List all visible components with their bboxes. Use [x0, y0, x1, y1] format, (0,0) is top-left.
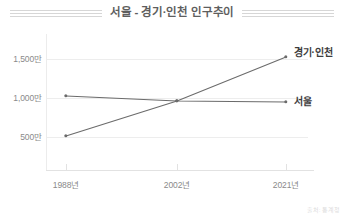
chart-root: 서울 - 경기·인천 인구추이 1,500만 1,000만 500만 경기·인천… [0, 0, 344, 215]
x-tick-label-2021: 2021년 [273, 181, 299, 190]
x-tick-label-2002: 2002년 [164, 181, 190, 190]
series-label-gyeonggi-incheon: 경기·인천 [294, 48, 332, 58]
series-label-seoul: 서울 [294, 97, 312, 107]
series-line-gyeonggi-incheon [66, 57, 286, 136]
x-tick-label-1988: 1988년 [53, 181, 79, 190]
source-note: 출처: 통계청 [307, 207, 340, 213]
